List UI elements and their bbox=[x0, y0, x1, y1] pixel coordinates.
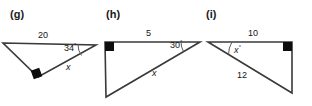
right-angle-marker-i bbox=[283, 42, 292, 51]
figure-i-side-top-length: 10 bbox=[248, 28, 258, 38]
geometry-worksheet-figures: (g) 20 34° x (h) 5 30° x (i) bbox=[0, 0, 312, 106]
figure-i-angle-unknown: x° bbox=[234, 44, 241, 55]
figure-i-side-hypotenuse-length: 12 bbox=[237, 70, 247, 80]
triangle-i-outline bbox=[208, 42, 292, 93]
figure-i-drawing bbox=[0, 0, 312, 106]
angle-arc-i bbox=[228, 42, 232, 55]
degree-symbol-icon: ° bbox=[239, 44, 241, 50]
